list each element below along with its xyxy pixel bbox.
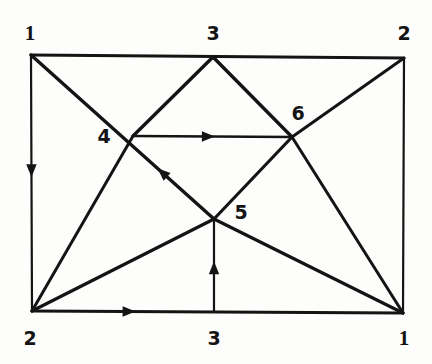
edge-arrowhead [209, 261, 219, 274]
vertex-label-v2-top-right: 2 [397, 24, 410, 43]
vertex-label-v1-bottom-right: 1 [399, 328, 410, 349]
graph-edge [32, 311, 403, 313]
vertex-label-v2-bottom-left: 2 [23, 329, 36, 348]
graph-edge [133, 57, 213, 136]
vertex-label-v5-center: 5 [234, 203, 247, 222]
arrowheads-layer [26, 131, 219, 316]
edge-arrowhead [202, 131, 215, 141]
vertex-label-v1-top-left: 1 [25, 23, 36, 44]
edges-layer [31, 55, 404, 313]
graph-svg [0, 0, 432, 364]
graph-edge [292, 58, 404, 137]
graph-edge [31, 55, 32, 311]
edge-arrowhead [26, 164, 36, 177]
vertex-label-v6-middle-right: 6 [291, 104, 304, 123]
diagram-canvas: 132465231 [0, 0, 432, 364]
graph-edge [31, 55, 404, 58]
graph-edge [214, 137, 292, 219]
vertex-label-v3-bottom: 3 [207, 329, 220, 348]
edge-arrowhead [123, 306, 136, 316]
vertex-label-v3-top: 3 [206, 24, 219, 43]
graph-edge [213, 57, 292, 137]
vertex-label-v4-middle-left: 4 [97, 127, 110, 146]
graph-edge [403, 58, 404, 313]
